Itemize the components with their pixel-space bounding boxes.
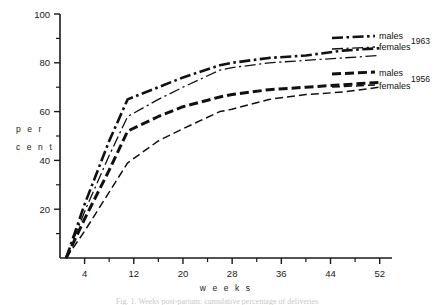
x-tick-label: 20 xyxy=(178,268,189,279)
line-chart: 10080604020 4122028364452 p e r c e n t … xyxy=(0,0,434,305)
x-tick-marks xyxy=(85,258,380,264)
series-layer xyxy=(66,48,380,258)
x-tick-label: 52 xyxy=(374,268,385,279)
y-tick-label: 80 xyxy=(39,57,50,68)
y-tick-label: 100 xyxy=(34,9,50,20)
legend-sample-line xyxy=(332,72,375,74)
y-axis-title-line1: p e r xyxy=(16,124,44,134)
legend-label-females-1956: females xyxy=(379,81,411,91)
y-axis-title-line2: c e n t xyxy=(16,142,54,152)
x-tick-label: 36 xyxy=(276,268,287,279)
legend-sample-lines xyxy=(332,36,375,87)
figure-caption: Fig. 1. Weeks post-partum: cumulative pe… xyxy=(0,298,434,305)
x-tick-label: 28 xyxy=(227,268,238,279)
legend-label-males-1963: males xyxy=(379,31,404,41)
legend-sample-line xyxy=(332,36,375,38)
y-tick-label: 60 xyxy=(39,106,50,117)
x-tick-label: 4 xyxy=(82,268,87,279)
y-tick-labels: 10080604020 xyxy=(34,9,50,215)
legend-year-1956: 1956 xyxy=(411,74,430,84)
legend-year-1963: 1963 xyxy=(411,36,430,46)
y-tick-label: 40 xyxy=(39,155,50,166)
legend-label-females-1963: females xyxy=(379,42,411,52)
y-tick-marks xyxy=(54,14,60,234)
series-line xyxy=(66,82,380,258)
series-line xyxy=(66,87,380,258)
legend-label-males-1956: males xyxy=(379,68,404,78)
x-tick-label: 12 xyxy=(128,268,139,279)
y-tick-label: 20 xyxy=(39,204,50,215)
series-line xyxy=(66,48,380,258)
chart-figure: 10080604020 4122028364452 p e r c e n t … xyxy=(0,0,434,305)
x-axis-title: w e e k s xyxy=(199,283,252,293)
x-tick-label: 44 xyxy=(325,268,336,279)
x-tick-labels: 4122028364452 xyxy=(82,268,385,279)
